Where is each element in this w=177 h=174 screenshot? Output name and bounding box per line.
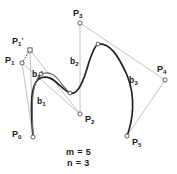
label-p1-sub: 1 — [11, 59, 14, 66]
knot-point-markers — [39, 42, 100, 95]
label-p3-sub: 3 — [79, 12, 82, 19]
control-point-p0[interactable] — [31, 135, 35, 139]
label-p5-sub: 5 — [138, 141, 141, 148]
parameter-m: m = 5 — [66, 147, 91, 157]
control-point-p2[interactable] — [78, 112, 82, 116]
label-p4-sub: 4 — [163, 68, 166, 75]
knot-point-k2 — [68, 91, 72, 95]
label-point-p2: P2 — [85, 115, 94, 124]
label-segment-b1-prime: b1' — [32, 70, 43, 79]
label-segment-b1: b1 — [37, 97, 46, 106]
label-b1-sub: 1 — [42, 100, 45, 107]
label-point-p1: P1 — [5, 56, 14, 65]
label-p1prime-mark: ' — [21, 36, 23, 45]
control-point-p3[interactable] — [78, 21, 82, 25]
label-point-p3: P3 — [73, 9, 82, 18]
control-point-p5[interactable] — [125, 134, 129, 138]
label-segment-b3: b3 — [129, 76, 138, 85]
label-b1prime-mark: ' — [41, 69, 43, 78]
label-p0-sub: 0 — [18, 133, 21, 140]
bspline-figure: P0 P1 P1' P2 P3 P4 P5 b1 b1' b2 b3 m = 5… — [0, 0, 177, 174]
parameter-n: n = 3 — [67, 158, 90, 168]
label-point-p1-prime: P1' — [12, 37, 23, 46]
label-point-p5: P5 — [132, 138, 141, 147]
label-point-p4: P4 — [157, 65, 166, 74]
control-point-p1-prime[interactable] — [28, 48, 32, 52]
label-p2-sub: 2 — [91, 118, 94, 125]
control-point-p4[interactable] — [163, 78, 167, 82]
knot-point-k3 — [96, 42, 100, 46]
control-point-p1[interactable] — [20, 61, 24, 65]
label-b2-sub: 2 — [75, 60, 78, 67]
spline-curve-original — [31, 44, 132, 137]
label-point-p0: P0 — [12, 130, 21, 139]
label-segment-b2: b2 — [70, 57, 79, 66]
label-b3-sub: 3 — [134, 79, 137, 86]
